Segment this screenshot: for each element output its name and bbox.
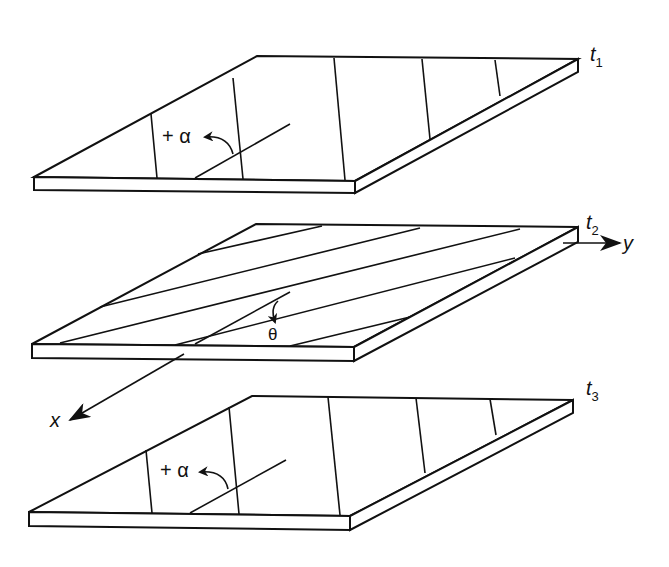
ply-3-front-edge xyxy=(29,512,350,530)
x-axis-label: x xyxy=(50,410,60,430)
x-axis-arrow xyxy=(70,354,184,420)
laminate-diagram: t1 + α t2 θ y x t3 + α xyxy=(0,0,669,567)
ply-1 xyxy=(34,56,578,193)
ply-2-front-edge xyxy=(32,344,354,361)
ply-2 xyxy=(32,224,578,361)
ply-2-theta-label: θ xyxy=(268,326,277,343)
y-axis-label: y xyxy=(623,233,633,253)
ply-3-thickness-label: t3 xyxy=(586,378,599,398)
ply-1-alpha-label: + α xyxy=(162,126,191,146)
diagram-drawing xyxy=(0,0,669,567)
ply-1-front-edge xyxy=(34,177,355,193)
ply-2-thickness-label: t2 xyxy=(586,212,599,232)
ply-1-thickness-label: t1 xyxy=(590,44,603,64)
ply-3-alpha-label: + α xyxy=(160,460,189,480)
ply-3 xyxy=(29,396,573,530)
